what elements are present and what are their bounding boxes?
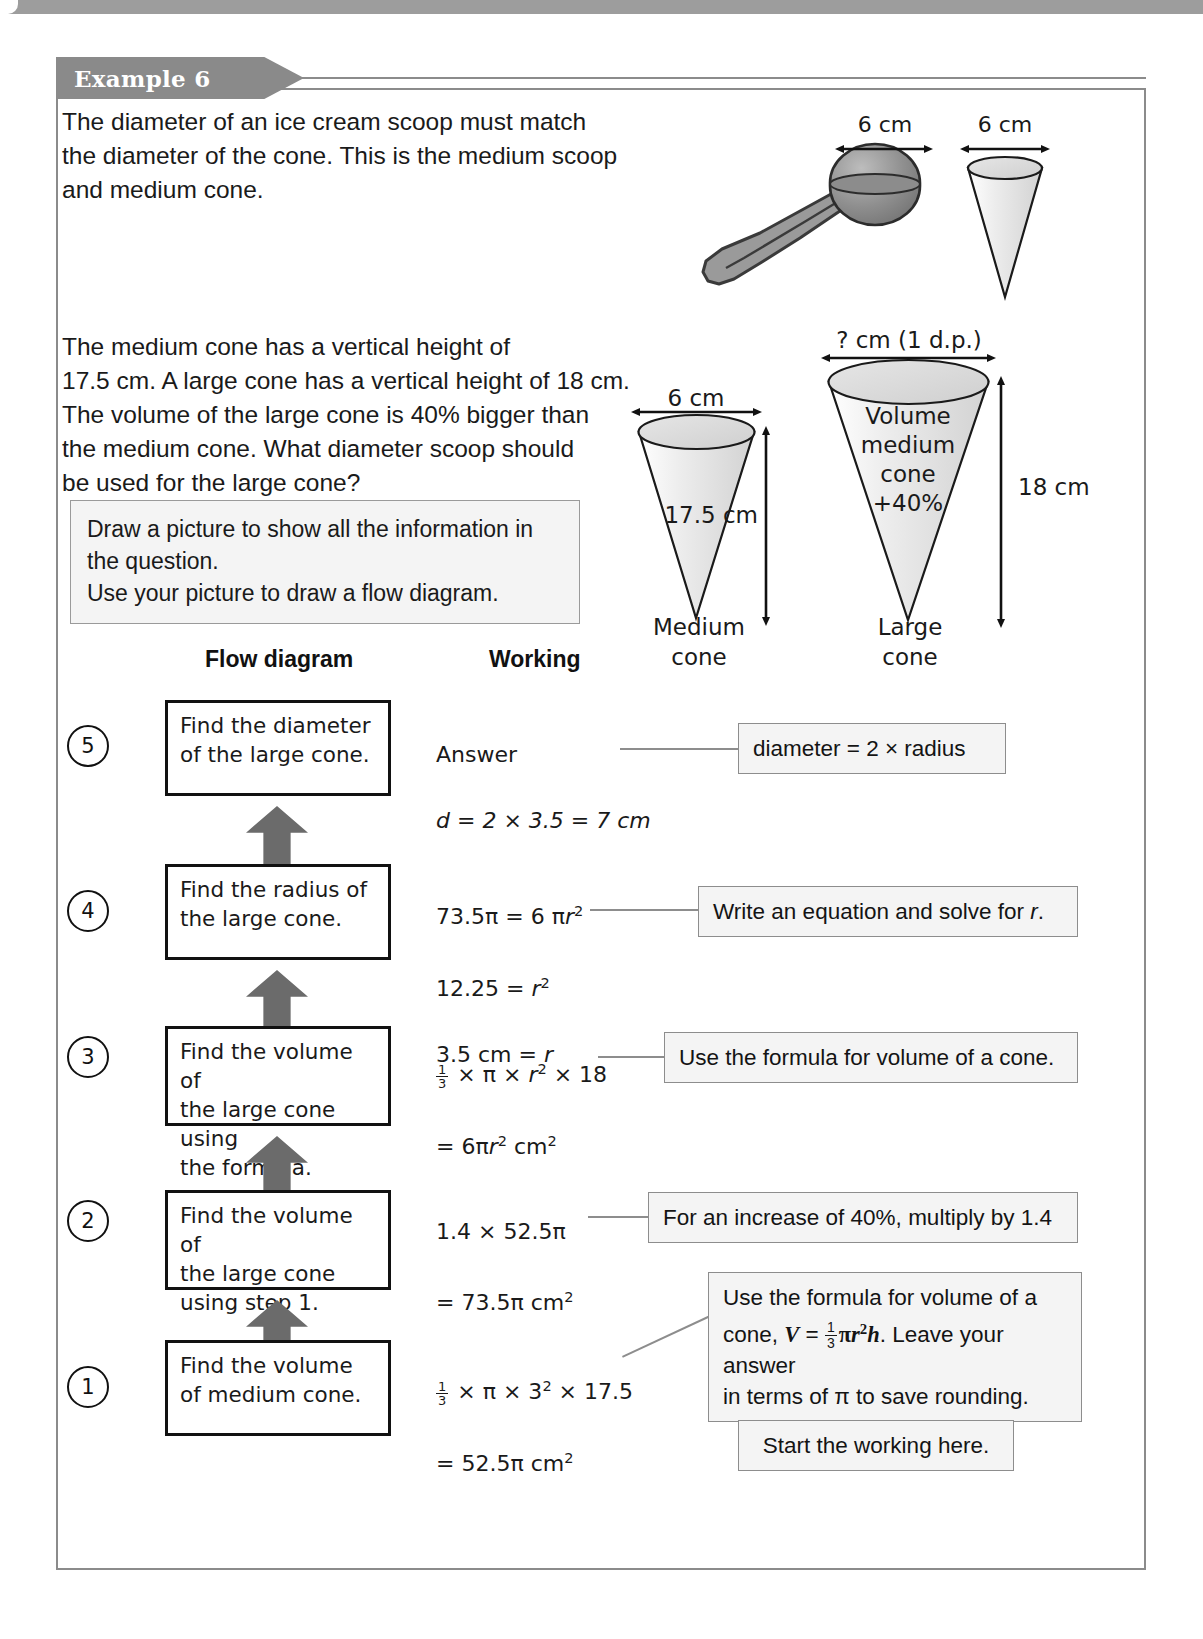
example-tag: Example 6 [56, 57, 304, 99]
scoop-dimension-label: 6 cm [843, 112, 927, 137]
working-line: 1.4 × 52.5π [436, 1219, 566, 1244]
callout-text: cone, [723, 1322, 784, 1347]
working-step-2: 1.4 × 52.5π = 73.5π cm2 [436, 1182, 573, 1319]
working-line: 73.5π = 6 πr2 [436, 904, 583, 929]
callout-line: Use the formula for volume of a [723, 1285, 1037, 1310]
working-step-3: 13 × π × r2 × 18 = 6πr2 cm2 [436, 1020, 607, 1163]
working-line: = 6πr2 cm2 [436, 1134, 557, 1159]
medium-cone-caption: Medium cone [644, 612, 754, 672]
large-cone-height-label: 18 cm [1018, 472, 1128, 502]
callout-step-4: Write an equation and solve for r. [698, 886, 1078, 937]
flow-box-step-1: Find the volume of medium cone. [165, 1340, 391, 1436]
large-cone-caption: Large cone [855, 612, 965, 672]
working-line: 13 × π × r2 × 18 [436, 1062, 607, 1087]
working-heading: Working [489, 646, 581, 673]
leader-line-step-5 [620, 748, 738, 750]
step-number-3: 3 [67, 1036, 109, 1078]
large-cone-inner-label: Volume medium cone +40% [853, 402, 963, 518]
working-line: = 73.5π cm2 [436, 1290, 573, 1315]
flow-box-step-2: Find the volume of the large cone using … [165, 1190, 391, 1290]
example-tag-rule [300, 77, 1146, 79]
intro-paragraph: The diameter of an ice cream scoop must … [62, 105, 622, 207]
flow-box-step-5: Find the diameter of the large cone. [165, 700, 391, 796]
leader-line-step-2 [588, 1216, 648, 1218]
cone-top-dimension-label: 6 cm [963, 112, 1047, 137]
working-line: 13 × π × 32 × 17.5 [436, 1379, 633, 1404]
flow-diagram-heading: Flow diagram [205, 646, 353, 673]
callout-step-2: For an increase of 40%, multiply by 1.4 [648, 1192, 1078, 1243]
step-number-5: 5 [67, 725, 109, 767]
callout-line: cone, V = 13πr2h. Leave your answer [723, 1322, 1004, 1379]
working-line: 12.25 = r2 [436, 976, 550, 1001]
start-working-box: Start the working here. [738, 1420, 1014, 1471]
callout-step-1: Use the formula for volume of a cone, V … [708, 1272, 1082, 1422]
flow-box-step-3: Find the volume of the large cone using … [165, 1026, 391, 1126]
question-paragraph: The medium cone has a vertical height of… [62, 330, 632, 500]
large-cone-width-label: ? cm (1 d.p.) [818, 325, 1000, 355]
working-line: = 52.5π cm2 [436, 1451, 573, 1476]
hint-box: Draw a picture to show all the informati… [70, 500, 580, 624]
one-third-fraction: 13 [825, 1320, 837, 1350]
formula-variable-v: V [784, 1322, 799, 1347]
working-step-1: 13 × π × 32 × 17.5 = 52.5π cm2 [436, 1337, 633, 1480]
step-number-1: 1 [67, 1366, 109, 1408]
step-number-2: 2 [67, 1200, 109, 1242]
callout-step-3: Use the formula for volume of a cone. [664, 1032, 1078, 1083]
working-line: Answer [436, 742, 517, 767]
page-top-bar [0, 0, 1203, 14]
medium-cone-width-label: 6 cm [654, 383, 738, 413]
callout-step-5: diameter = 2 × radius [738, 723, 1006, 774]
leader-line-step-3 [598, 1056, 664, 1058]
medium-cone-height-label: 17.5 cm [638, 500, 758, 530]
callout-text: = [799, 1322, 825, 1347]
flow-box-step-4: Find the radius of the large cone. [165, 864, 391, 960]
working-step-5: Answer d = 2 × 3.5 = 7 cm [436, 705, 651, 837]
leader-line-step-4 [590, 909, 698, 911]
step-number-4: 4 [67, 890, 109, 932]
working-line: d = 2 × 3.5 = 7 cm [436, 808, 651, 833]
callout-line: in terms of π to save rounding. [723, 1384, 1029, 1409]
